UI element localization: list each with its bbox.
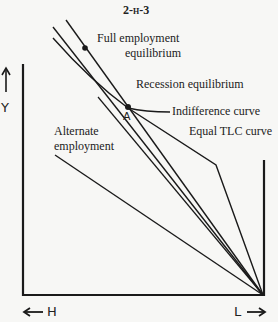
l-axis-label: L	[234, 305, 241, 319]
full-employment-label: Full employment	[97, 31, 179, 45]
h-axis-label: H	[47, 305, 57, 319]
equal-tlc-label: Equal TLC curve	[189, 124, 272, 138]
indifference-label: Indifference curve	[172, 104, 260, 118]
recession-label: Recession equilibrium	[136, 77, 244, 91]
alternate-label: Alternate	[54, 124, 99, 138]
recession-line	[53, 27, 263, 295]
diagram: 2-h-3 Full employment equilibrium Recess…	[0, 0, 278, 322]
alternate-employment-line	[55, 155, 263, 295]
y-axis-label: Y	[1, 101, 9, 115]
point-a-label: A	[123, 110, 131, 124]
alternate-label-2: employment	[54, 139, 114, 153]
figure-title: 2-h-3	[123, 3, 149, 17]
full-employment-label-2: equilibrium	[125, 46, 181, 60]
full-employment-line	[66, 20, 263, 295]
full-employment-point	[82, 45, 88, 51]
